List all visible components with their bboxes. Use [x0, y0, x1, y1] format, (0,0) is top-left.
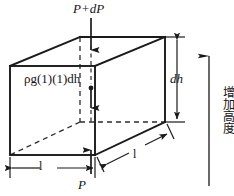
increasing-height-axis-label: 增加高度 — [221, 86, 233, 134]
edge-top-left-diagonal — [10, 37, 80, 66]
width-dimension — [10, 157, 95, 178]
depth-extension-left — [97, 157, 104, 172]
pressure-element-diagram: P+dP ρg(1)(1)dh dh P l l 增加高度 — [0, 0, 234, 196]
cuboid-edges — [10, 37, 165, 155]
hidden-edges — [10, 37, 165, 155]
depth-dim-left-seg — [107, 153, 129, 164]
height-dimension-label: dh — [170, 72, 183, 85]
weight-origin-dot — [89, 86, 94, 91]
hidden-edge-back-to-front-bottom — [10, 122, 80, 155]
diagram-canvas — [0, 0, 234, 196]
depth-dim-right-seg — [145, 134, 167, 145]
depth-extension-right — [167, 124, 174, 139]
bottom-force-label: P — [78, 178, 86, 191]
edge-top-right-diagonal — [95, 37, 165, 66]
width-dimension-label: l — [39, 160, 42, 172]
weight-label: ρg(1)(1)dh — [24, 72, 80, 85]
edge-bottom-right-diagonal — [95, 122, 165, 155]
top-force-label: P+dP — [73, 2, 104, 15]
depth-dimension-label: l — [133, 148, 136, 160]
